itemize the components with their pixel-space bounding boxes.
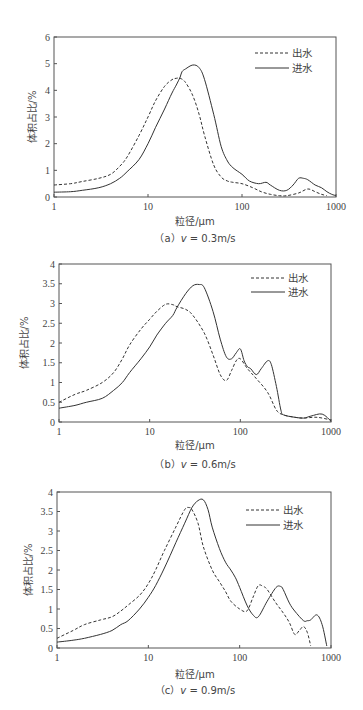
x-tick-label: 1	[55, 652, 60, 663]
y-tick-label: 2	[45, 138, 50, 149]
series-inlet-line	[54, 65, 336, 196]
series-outlet-line	[54, 78, 327, 196]
y-axis-label: 体积占比/%	[18, 317, 30, 370]
legend-label-outlet: 出水	[288, 272, 309, 284]
chart-a: 0123456 1101001000 出水 进水 体积占比/% 粒径/μm （a…	[26, 32, 346, 245]
legend-label-outlet: 出水	[283, 504, 304, 516]
legend: 出水 进水	[255, 47, 313, 74]
x-tick-label: 100	[233, 426, 248, 437]
y-axis-label: 体积占比/%	[22, 544, 34, 597]
legend-label-inlet: 进水	[288, 286, 309, 298]
data-lines	[59, 284, 331, 421]
y-tick-label: 6	[45, 32, 50, 43]
y-tick-label: 2	[50, 338, 55, 349]
y-tick-label: 4	[48, 487, 53, 498]
legend-label-outlet: 出水	[292, 47, 313, 59]
x-tick-label: 1000	[326, 201, 346, 212]
chart-b: 00.511.522.533.54 1101001000 出水 进水 体积占比/…	[18, 259, 341, 471]
y-tick-label: 5	[45, 58, 50, 69]
y-tick-label: 1	[50, 377, 55, 388]
chart-c: 00.511.522.533.54 1101001000 出水 进水 体积占比/…	[22, 487, 341, 697]
y-tick-label: 1.5	[41, 584, 54, 595]
legend-label-inlet: 进水	[283, 519, 304, 531]
y-tick-label: 3	[48, 526, 53, 537]
data-lines	[54, 65, 336, 196]
x-tick-label: 100	[235, 201, 250, 212]
x-tick-label: 1	[52, 201, 57, 212]
chart-caption: （b）v = 0.6m/s	[154, 459, 235, 470]
y-tick-label: 4	[50, 259, 55, 270]
y-axis-label: 体积占比/%	[26, 91, 38, 144]
y-tick-label: 0.5	[43, 397, 56, 408]
y-tick-label: 0.5	[41, 623, 54, 634]
x-tick-label: 10	[143, 652, 153, 663]
y-tick-label: 0	[50, 417, 55, 428]
chart-caption: （c）v = 0.9m/s	[155, 685, 235, 696]
y-tick-label: 0	[48, 643, 53, 654]
x-axis-label: 粒径/μm	[175, 439, 214, 451]
y-tick-label: 2	[48, 565, 53, 576]
legend: 出水 进水	[246, 504, 304, 531]
y-axis-ticks: 00.511.522.533.54	[41, 487, 61, 654]
y-tick-label: 4	[45, 85, 50, 96]
x-tick-label: 1	[57, 426, 62, 437]
x-tick-label: 100	[232, 652, 247, 663]
y-tick-label: 3	[50, 298, 55, 309]
series-inlet-line	[59, 284, 331, 421]
series-outlet-line	[57, 507, 311, 646]
y-tick-label: 1.5	[43, 357, 56, 368]
x-tick-label: 1000	[321, 652, 341, 663]
legend: 出水 进水	[251, 272, 309, 298]
series-outlet-line	[59, 304, 331, 420]
y-tick-label: 1	[48, 604, 53, 615]
x-tick-label: 10	[145, 426, 155, 437]
chart-caption: （a）v = 0.3m/s	[154, 233, 235, 244]
y-tick-label: 3	[45, 112, 50, 123]
x-axis-label: 粒径/μm	[175, 668, 214, 680]
y-tick-label: 2.5	[41, 545, 54, 556]
y-tick-label: 1	[45, 165, 50, 176]
x-tick-label: 10	[143, 201, 153, 212]
y-tick-label: 3.5	[43, 278, 56, 289]
x-axis-label: 粒径/μm	[175, 215, 214, 227]
y-axis-ticks: 0123456	[45, 32, 57, 203]
figure-canvas: 0123456 1101001000 出水 进水 体积占比/% 粒径/μm （a…	[0, 0, 363, 710]
y-tick-label: 2.5	[43, 318, 56, 329]
x-tick-label: 1000	[321, 426, 341, 437]
legend-label-inlet: 进水	[292, 62, 313, 74]
y-tick-label: 0	[45, 192, 50, 203]
plot-frame	[54, 37, 336, 197]
y-tick-label: 3.5	[41, 506, 54, 517]
